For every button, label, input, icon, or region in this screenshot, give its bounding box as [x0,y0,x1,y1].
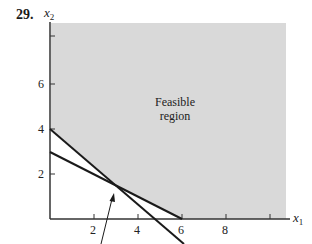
y-tick-labels: 2 4 6 [38,77,44,181]
corner-arrow [101,199,112,244]
arrowhead-icon [110,193,116,202]
feasible-region-diagram: 29. x2 x1 2 4 6 2 4 6 8 Feasible region [0,0,312,244]
svg-text:4: 4 [38,122,44,136]
region-label-line1: Feasible [155,95,195,109]
svg-text:4: 4 [134,223,140,237]
region-label-line2: region [160,109,191,123]
x-tick-labels: 2 4 6 8 [90,223,228,237]
svg-text:2: 2 [90,223,96,237]
x-axis-label: x1 [292,210,303,227]
problem-number: 29. [16,7,34,22]
svg-text:6: 6 [178,223,184,237]
y-axis-label: x2 [43,5,54,22]
svg-text:6: 6 [38,77,44,91]
svg-text:2: 2 [38,167,44,181]
svg-text:8: 8 [222,223,228,237]
